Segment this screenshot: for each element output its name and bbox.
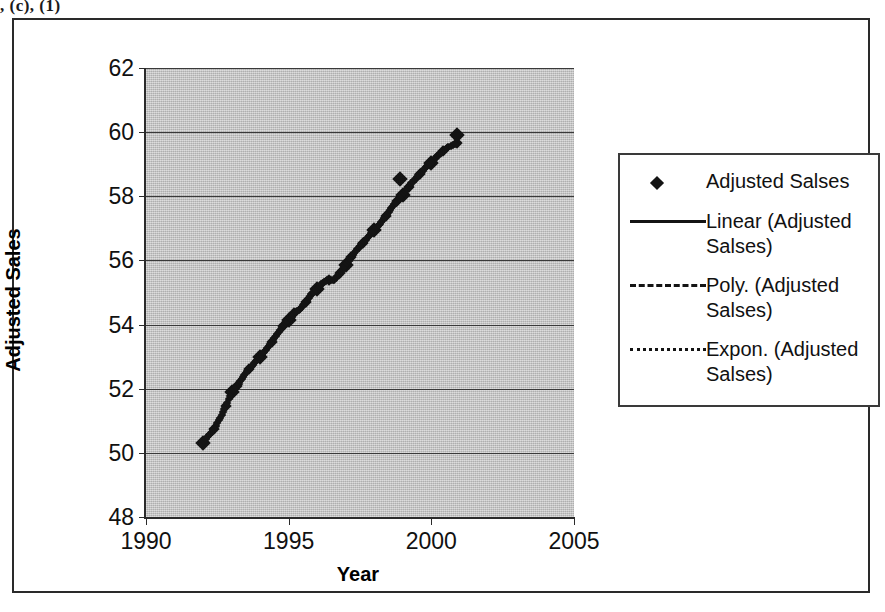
trend-line-segment: [337, 267, 345, 275]
x-axis-tick-label: 1990: [120, 528, 171, 555]
trend-line-segment: [430, 155, 438, 163]
trend-line-segment: [380, 213, 388, 221]
data-point-marker: [323, 274, 334, 285]
trend-line-segment: [367, 229, 375, 237]
trend-line-segment: [396, 194, 404, 202]
trend-line-segment: [249, 360, 257, 368]
trend-line-segment: [236, 377, 244, 385]
legend-entry-label: Linear (Adjusted Salses): [706, 209, 868, 259]
x-axis-tick: [146, 517, 147, 525]
y-axis-tick: [139, 260, 146, 261]
legend-entry[interactable]: Poly. (Adjusted Salses): [630, 273, 868, 323]
trend-line-segment: [200, 437, 208, 445]
trend-line-segment: [282, 319, 290, 327]
trend-line-segment: [240, 371, 248, 379]
data-point-marker: [205, 431, 213, 439]
trend-line-segment: [434, 151, 442, 159]
x-axis-tick: [431, 517, 432, 525]
trend-line-segment: [333, 272, 341, 280]
trend-line-segment: [292, 308, 300, 316]
trend-line-segment: [340, 263, 348, 271]
trend-line-segment: [257, 351, 265, 359]
trend-line-segment: [309, 289, 317, 297]
trend-line-segment: [259, 349, 267, 357]
data-point-marker: [403, 181, 414, 192]
trend-line-segment: [446, 142, 454, 150]
trend-line-segment: [369, 227, 377, 235]
y-axis-tick-label: 58: [108, 183, 134, 210]
data-point-marker: [380, 210, 391, 221]
x-axis-tick-label: 1995: [263, 528, 314, 555]
trend-line-segment: [209, 426, 217, 434]
trend-line-segment: [287, 312, 295, 320]
trend-line-segment: [253, 356, 261, 364]
data-point-marker: [307, 290, 315, 298]
trend-line-segment: [437, 148, 445, 156]
y-axis-tick-label: 60: [108, 119, 134, 146]
data-point-marker: [250, 359, 258, 367]
legend-entry-label: Poly. (Adjusted Salses): [706, 273, 868, 323]
trend-line-segment: [317, 280, 325, 288]
data-point-marker: [433, 152, 441, 160]
y-axis-tick-label: 48: [108, 504, 134, 531]
trend-line-segment: [293, 307, 301, 315]
trend-line-segment: [299, 301, 307, 309]
legend-entry[interactable]: Linear (Adjusted Salses): [630, 209, 868, 259]
data-point-marker: [300, 296, 311, 307]
trend-line-segment: [207, 428, 215, 436]
trend-line-segment: [448, 141, 456, 149]
legend-entry[interactable]: Adjusted Salses: [630, 169, 868, 195]
trend-line-segment: [390, 200, 398, 208]
data-point-marker: [289, 308, 300, 319]
gridline: [146, 196, 574, 197]
trend-line-segment: [361, 235, 369, 243]
trend-line-segment: [304, 294, 312, 302]
data-point-marker: [277, 321, 288, 332]
trend-line-segment: [384, 207, 392, 215]
y-axis-tick-label: 50: [108, 439, 134, 466]
trend-line-segment: [419, 166, 427, 174]
trend-line-segment: [414, 171, 422, 179]
trend-line-segment: [389, 202, 397, 210]
legend-key: [630, 169, 706, 195]
y-axis-title: Adjusted Sales: [2, 180, 25, 420]
trend-line-segment: [350, 249, 358, 257]
data-point-marker: [319, 279, 327, 287]
gridline: [146, 260, 574, 261]
trend-line-segment: [215, 416, 223, 424]
x-axis-title: Year: [144, 563, 572, 586]
data-point-marker: [410, 176, 418, 184]
trend-line-segment: [206, 429, 214, 437]
trend-line-segment: [242, 369, 250, 377]
legend-entry[interactable]: Expon. (Adjusted Salses): [630, 337, 868, 387]
trend-line-segment: [351, 247, 359, 255]
y-axis-tick: [139, 325, 146, 326]
data-point-marker: [437, 146, 448, 157]
trend-line-segment: [354, 243, 362, 251]
x-axis-tick-label: 2005: [548, 528, 599, 555]
trend-line-segment: [316, 282, 324, 290]
y-axis-tick-label: 62: [108, 55, 134, 82]
data-point-marker: [273, 330, 281, 338]
trend-line-segment: [424, 161, 432, 169]
trend-line-segment: [346, 255, 354, 263]
trend-line-segment: [229, 386, 237, 394]
trend-line-segment: [406, 181, 414, 189]
data-point-marker: [224, 384, 240, 400]
trend-line-segment: [220, 405, 228, 413]
trend-line-segment: [326, 275, 334, 283]
trend-line-segment: [254, 354, 262, 362]
data-point-marker: [334, 268, 345, 279]
figure-frame: 4850525456586062 1990199520002005 Adjust…: [12, 18, 870, 593]
data-point-marker: [266, 337, 277, 348]
trend-line-segment: [294, 305, 302, 313]
legend-key: [630, 209, 706, 235]
trend-line-segment: [436, 150, 444, 158]
trend-line-segment: [223, 398, 231, 406]
data-point-marker: [330, 275, 338, 283]
trend-line-segment: [440, 146, 448, 154]
trend-line-segment: [401, 186, 409, 194]
trend-line-segment: [379, 215, 387, 223]
trend-line-segment: [270, 334, 278, 342]
trend-line-segment: [329, 275, 337, 283]
